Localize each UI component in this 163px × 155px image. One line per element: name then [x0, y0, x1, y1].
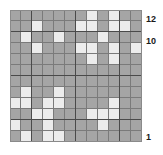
heatmap-cell — [32, 120, 43, 131]
heatmap-cell — [21, 32, 32, 43]
heatmap-cell — [120, 43, 131, 54]
heatmap-cell — [54, 21, 65, 32]
heatmap-cell — [21, 76, 32, 87]
heatmap-cell — [120, 98, 131, 109]
heatmap-cell — [87, 109, 98, 120]
heatmap-cell — [65, 131, 76, 142]
heatmap-cell — [109, 54, 120, 65]
heatmap-cell — [109, 98, 120, 109]
heatmap-cell — [10, 109, 21, 120]
heatmap-cell — [131, 21, 142, 32]
heatmap-cell — [98, 32, 109, 43]
heatmap-cell — [109, 109, 120, 120]
heatmap-cell — [10, 10, 21, 21]
heatmap-cell — [87, 76, 98, 87]
heatmap-cell — [10, 76, 21, 87]
heatmap-cell — [65, 10, 76, 21]
heatmap-cell — [87, 131, 98, 142]
heatmap-cell — [87, 87, 98, 98]
heatmap-cell — [54, 32, 65, 43]
heatmap-cell — [98, 120, 109, 131]
heatmap-cell — [43, 87, 54, 98]
heatmap-cell — [32, 54, 43, 65]
heatmap-cell — [120, 65, 131, 76]
heatmap-cell — [87, 65, 98, 76]
heatmap-cell — [21, 43, 32, 54]
heatmap-cell — [65, 120, 76, 131]
heatmap-cell — [76, 131, 87, 142]
heatmap-cell — [109, 43, 120, 54]
heatmap-cell — [32, 76, 43, 87]
heatmap-cell — [32, 98, 43, 109]
heatmap-cell — [87, 43, 98, 54]
heatmap-cell — [43, 54, 54, 65]
heatmap-cell — [54, 98, 65, 109]
heatmap-cell — [98, 65, 109, 76]
heatmap-cell — [21, 54, 32, 65]
heatmap-cell — [131, 87, 142, 98]
heatmap-cell — [54, 54, 65, 65]
heatmap-cell — [120, 10, 131, 21]
heatmap-cell — [98, 76, 109, 87]
heatmap-cell — [54, 43, 65, 54]
heatmap-cell — [109, 10, 120, 21]
heatmap-cell — [65, 76, 76, 87]
heatmap-cell — [65, 43, 76, 54]
heatmap-cell — [98, 131, 109, 142]
heatmap-cell — [32, 43, 43, 54]
heatmap-cell — [21, 120, 32, 131]
heatmap-cell — [98, 109, 109, 120]
heatmap-cell — [54, 109, 65, 120]
heatmap-cell — [65, 109, 76, 120]
heatmap-cell — [65, 32, 76, 43]
heatmap-cell — [32, 32, 43, 43]
heatmap-cell — [87, 98, 98, 109]
heatmap-cell — [120, 87, 131, 98]
heatmap-cell — [54, 10, 65, 21]
heatmap-cell — [109, 65, 120, 76]
heatmap-cell — [32, 87, 43, 98]
heatmap-cell — [21, 109, 32, 120]
heatmap-cell — [43, 109, 54, 120]
heatmap-cell — [109, 32, 120, 43]
heatmap-cell — [131, 120, 142, 131]
heatmap-cell — [131, 10, 142, 21]
heatmap-cell — [65, 21, 76, 32]
heatmap-cell — [54, 120, 65, 131]
heatmap-cell — [98, 21, 109, 32]
heatmap-cell — [87, 21, 98, 32]
heatmap-cell — [131, 131, 142, 142]
heatmap-cell — [43, 120, 54, 131]
heatmap-cell — [21, 87, 32, 98]
heatmap-cell — [120, 109, 131, 120]
heatmap-cell — [43, 98, 54, 109]
heatmap-cell — [131, 76, 142, 87]
heatmap-cell — [98, 10, 109, 21]
heatmap-cell — [10, 54, 21, 65]
heatmap-cell — [87, 32, 98, 43]
heatmap-cell — [109, 87, 120, 98]
y-axis-label-bottom: 1 — [146, 133, 151, 142]
heatmap-cell — [120, 120, 131, 131]
heatmap-cell — [120, 131, 131, 142]
heatmap-cell — [21, 21, 32, 32]
heatmap-cell — [21, 98, 32, 109]
heatmap-cell — [120, 21, 131, 32]
heatmap-cell — [21, 10, 32, 21]
heatmap-cell — [32, 21, 43, 32]
heatmap-cell — [76, 43, 87, 54]
heatmap-cell — [54, 65, 65, 76]
heatmap-cell — [131, 65, 142, 76]
heatmap-cell — [21, 65, 32, 76]
heatmap-grid-container — [10, 10, 142, 142]
heatmap-cell — [109, 120, 120, 131]
y-axis-label-second: 10 — [146, 37, 156, 46]
heatmap-cell — [76, 98, 87, 109]
heatmap-cell — [131, 98, 142, 109]
heatmap-cell — [32, 109, 43, 120]
heatmap-cell — [65, 98, 76, 109]
heatmap-cell — [65, 87, 76, 98]
heatmap-cell — [10, 43, 21, 54]
heatmap-cell — [43, 10, 54, 21]
heatmap-cell — [76, 109, 87, 120]
